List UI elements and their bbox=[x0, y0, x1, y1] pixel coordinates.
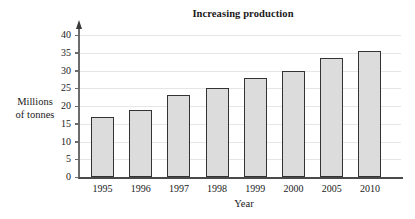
y-tick-mark bbox=[75, 52, 79, 54]
y-tick-mark bbox=[75, 106, 79, 108]
plot-area: 0510152025303540 19951996199719981999200… bbox=[78, 20, 403, 178]
bar bbox=[91, 117, 114, 177]
x-tick-label: 2000 bbox=[276, 183, 312, 194]
x-tick-label: 2010 bbox=[352, 183, 388, 194]
y-tick-label: 5 bbox=[51, 154, 71, 164]
x-tick-label: 2005 bbox=[314, 183, 350, 194]
chart-title: Increasing production bbox=[118, 8, 368, 19]
y-tick-mark bbox=[75, 70, 79, 72]
x-axis-title: Year bbox=[88, 198, 400, 209]
x-tick-label: 1996 bbox=[123, 183, 159, 194]
x-tick-label: 1998 bbox=[199, 183, 235, 194]
x-axis-line bbox=[78, 177, 403, 179]
y-tick-label: 30 bbox=[51, 66, 71, 76]
gridline bbox=[79, 124, 401, 125]
bar bbox=[129, 110, 152, 177]
y-tick-label: 20 bbox=[51, 101, 71, 111]
gridline bbox=[79, 88, 401, 89]
y-tick-mark bbox=[75, 123, 79, 125]
y-tick-label: 0 bbox=[51, 172, 71, 182]
bar bbox=[167, 95, 190, 177]
bar-chart: Increasing production Millions of tonnes… bbox=[0, 0, 415, 219]
bar bbox=[282, 71, 305, 178]
y-tick-mark bbox=[75, 35, 79, 37]
gridline bbox=[79, 106, 401, 107]
bar bbox=[320, 58, 343, 177]
y-axis-line bbox=[78, 28, 80, 177]
y-tick-mark bbox=[75, 88, 79, 90]
gridline bbox=[79, 142, 401, 143]
y-tick-label: 25 bbox=[51, 83, 71, 93]
x-tick-label: 1999 bbox=[237, 183, 273, 194]
x-tick-label: 1997 bbox=[161, 183, 197, 194]
y-tick-mark bbox=[75, 159, 79, 161]
gridline bbox=[79, 159, 401, 160]
y-tick-mark bbox=[75, 141, 79, 143]
y-axis-arrow-icon bbox=[76, 20, 82, 29]
bar bbox=[244, 78, 267, 177]
gridline bbox=[79, 71, 401, 72]
y-tick-label: 35 bbox=[51, 48, 71, 58]
y-tick-label: 40 bbox=[51, 30, 71, 40]
bar bbox=[358, 51, 381, 177]
y-tick-label: 15 bbox=[51, 119, 71, 129]
x-tick-label: 1995 bbox=[85, 183, 121, 194]
bar bbox=[206, 88, 229, 177]
y-tick-label: 10 bbox=[51, 137, 71, 147]
gridline bbox=[79, 53, 401, 54]
y-tick-mark bbox=[75, 177, 79, 179]
gridline bbox=[79, 35, 401, 36]
